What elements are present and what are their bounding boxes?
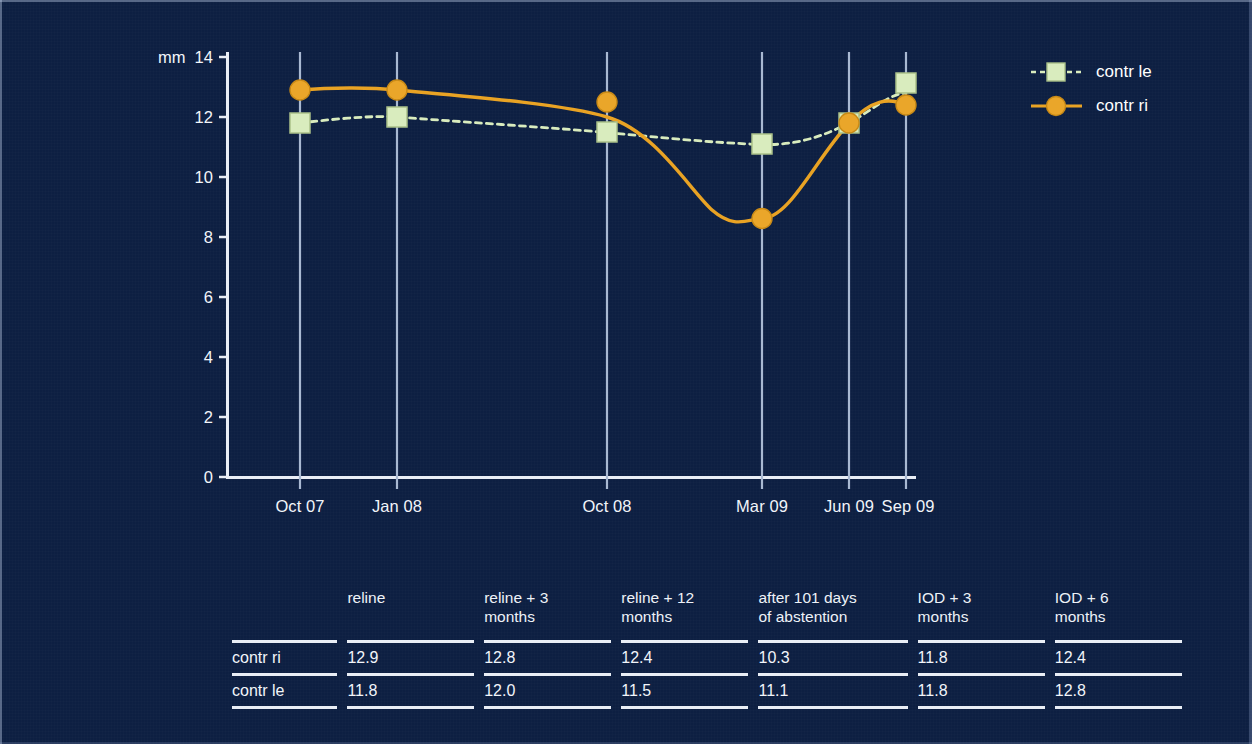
table-row: contr le 11.8 12.0 11.5 11.1 11.8 12.8 bbox=[232, 676, 1192, 706]
data-table: reline reline + 3 months reline + 12 mon… bbox=[232, 588, 1192, 709]
table-cell: 12.4 bbox=[621, 643, 758, 673]
table-header-line1: reline + 12 bbox=[621, 588, 758, 607]
series-markers-contr-ri bbox=[290, 80, 916, 229]
table-cell: 10.3 bbox=[758, 643, 917, 673]
table-header-after-101-days: after 101 days of abstention bbox=[758, 588, 917, 640]
table-cell: 11.1 bbox=[758, 676, 917, 706]
line-chart: mm 14 12 10 8 6 4 2 0 Oct 07 Jan 08 Oct … bbox=[0, 0, 1252, 540]
legend-label-contr-ri: contr ri bbox=[1096, 96, 1148, 116]
table-header-iod-3-months: IOD + 3 months bbox=[918, 588, 1055, 640]
chart-plot-svg bbox=[0, 0, 1252, 540]
table-header-reline-3-months: reline + 3 months bbox=[484, 588, 621, 640]
table-header-reline: reline bbox=[347, 588, 484, 640]
rule-cell bbox=[758, 706, 917, 709]
table-cell: 11.5 bbox=[621, 676, 758, 706]
table-header-line1: reline + 3 bbox=[484, 588, 621, 607]
table-cell: 11.8 bbox=[918, 643, 1055, 673]
table-header-line1: reline bbox=[347, 588, 484, 607]
y-tick-label-10: 10 bbox=[173, 168, 213, 187]
table-cell: 12.4 bbox=[1055, 643, 1192, 673]
table-rule-bottom bbox=[232, 706, 1192, 709]
table-header-reline-12-months: reline + 12 months bbox=[621, 588, 758, 640]
rule-cell bbox=[347, 706, 484, 709]
table-header-line2: months bbox=[621, 607, 758, 626]
table-cell: 12.9 bbox=[347, 643, 484, 673]
rule-cell bbox=[1055, 706, 1192, 709]
y-tick-label-2: 2 bbox=[173, 408, 213, 427]
y-tick-label-12: 12 bbox=[173, 108, 213, 127]
series-markers-contr-le bbox=[290, 73, 916, 154]
table-header-line1: IOD + 3 bbox=[918, 588, 1055, 607]
legend-swatch-contr-ri bbox=[1031, 97, 1082, 116]
table-header-row: reline reline + 3 months reline + 12 mon… bbox=[232, 588, 1192, 640]
table-header-line2: months bbox=[484, 607, 621, 626]
table-cell: 12.8 bbox=[484, 643, 621, 673]
y-tick-label-8: 8 bbox=[173, 228, 213, 247]
table-row-label-contr-le: contr le bbox=[232, 676, 347, 706]
x-tick-label-oct-08: Oct 08 bbox=[557, 497, 657, 516]
rule-cell bbox=[918, 706, 1055, 709]
x-tick-label-mar-09: Mar 09 bbox=[712, 497, 812, 516]
legend-label-contr-le: contr le bbox=[1096, 62, 1152, 82]
table-row: contr ri 12.9 12.8 12.4 10.3 11.8 12.4 bbox=[232, 643, 1192, 673]
y-tick-label-14: 14 bbox=[173, 48, 213, 67]
table-header-line2: of abstention bbox=[758, 607, 917, 626]
table-corner-cell bbox=[232, 588, 347, 640]
table-header-line1: after 101 days bbox=[758, 588, 917, 607]
table-cell: 11.8 bbox=[347, 676, 484, 706]
table-row-label-contr-ri: contr ri bbox=[232, 643, 347, 673]
table-header-line1: IOD + 6 bbox=[1055, 588, 1192, 607]
x-tick-label-oct-07: Oct 07 bbox=[250, 497, 350, 516]
rule-cell bbox=[232, 706, 347, 709]
table-cell: 12.0 bbox=[484, 676, 621, 706]
table-header-line2: months bbox=[918, 607, 1055, 626]
y-tick-label-4: 4 bbox=[173, 348, 213, 367]
y-tick-label-0: 0 bbox=[173, 468, 213, 487]
rule-cell bbox=[621, 706, 758, 709]
table-header-line2: months bbox=[1055, 607, 1192, 626]
table-cell: 12.8 bbox=[1055, 676, 1192, 706]
legend-swatch-contr-le bbox=[1031, 63, 1082, 81]
x-tick-label-sep-09: Sep 09 bbox=[858, 497, 958, 516]
rule-cell bbox=[484, 706, 621, 709]
x-tick-label-jan-08: Jan 08 bbox=[347, 497, 447, 516]
table-header-iod-6-months: IOD + 6 months bbox=[1055, 588, 1192, 640]
y-tick-label-6: 6 bbox=[173, 288, 213, 307]
slide-canvas: mm 14 12 10 8 6 4 2 0 Oct 07 Jan 08 Oct … bbox=[0, 0, 1252, 744]
table-cell: 11.8 bbox=[918, 676, 1055, 706]
